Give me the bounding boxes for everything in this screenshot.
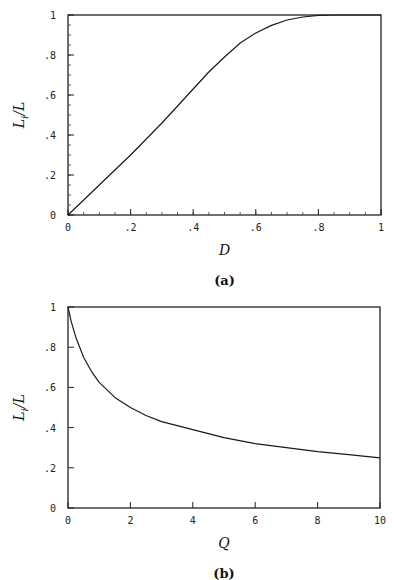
y-tick-label: .6	[44, 382, 56, 393]
y-label-main: L	[11, 119, 27, 129]
y-tick-label: .4	[44, 423, 56, 434]
figure-panel-a: 0.2.4.6.810.2.4.6.81DLi/L(a)	[0, 0, 395, 295]
x-tick-label: 4	[190, 515, 196, 526]
y-tick-label: .8	[44, 342, 56, 353]
y-tick-label: .2	[44, 170, 56, 181]
y-tick-label: 0	[50, 210, 56, 221]
x-tick-label: 10	[374, 515, 386, 526]
y-tick-label: .8	[44, 50, 56, 61]
y-tick-label: 1	[50, 10, 56, 21]
plot-frame	[68, 15, 381, 215]
x-tick-label: .2	[125, 222, 137, 233]
y-axis-label: Li/L	[11, 102, 30, 130]
x-tick-label: 0	[65, 515, 71, 526]
data-series-line	[68, 307, 380, 458]
figure-panel-b: 02468100.2.4.6.81QLi/L(b)	[0, 295, 395, 580]
x-axis-label: D	[218, 242, 230, 258]
y-tick-label: .6	[44, 90, 56, 101]
line-chart-b: 02468100.2.4.6.81QLi/L(b)	[0, 295, 395, 580]
plot-frame	[68, 307, 380, 508]
x-tick-label: 0	[65, 222, 71, 233]
x-tick-label: .8	[312, 222, 324, 233]
x-tick-label: 2	[127, 515, 133, 526]
y-tick-label: 0	[50, 503, 56, 514]
line-chart-a: 0.2.4.6.810.2.4.6.81DLi/L(a)	[0, 0, 395, 295]
y-label-tail: /L	[11, 102, 27, 118]
x-axis-label: Q	[218, 535, 230, 551]
x-tick-label: 8	[315, 515, 321, 526]
y-label-main: L	[11, 411, 27, 421]
y-label-tail: /L	[11, 394, 27, 410]
y-tick-label: 1	[50, 302, 56, 313]
panel-caption: (b)	[213, 566, 234, 580]
x-tick-label: 1	[378, 222, 384, 233]
x-tick-label: .4	[187, 222, 199, 233]
y-axis-label: Li/L	[11, 394, 30, 422]
y-tick-label: .4	[44, 130, 56, 141]
x-tick-label: .6	[250, 222, 262, 233]
panel-caption: (a)	[214, 273, 235, 288]
x-tick-label: 6	[252, 515, 258, 526]
data-series-line	[68, 15, 381, 215]
y-tick-label: .2	[44, 463, 56, 474]
